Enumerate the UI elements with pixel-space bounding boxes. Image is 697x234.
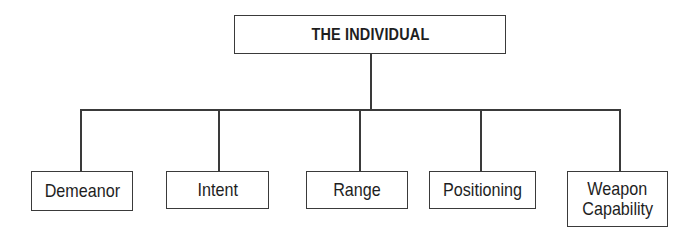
- node-positioning: Positioning: [429, 171, 536, 209]
- node-label-line2: Capability: [582, 199, 653, 219]
- root-node-label: THE INDIVIDUAL: [311, 25, 429, 45]
- root-node-the-individual: THE INDIVIDUAL: [234, 15, 506, 54]
- connector-intent: [218, 109, 220, 171]
- connector-demeanor: [80, 109, 82, 171]
- root-connector-line: [370, 53, 372, 110]
- horizontal-bus-line: [80, 109, 620, 111]
- node-label: Positioning: [443, 180, 522, 200]
- connector-positioning: [480, 109, 482, 171]
- node-label-line1: Weapon: [588, 179, 648, 199]
- node-label: Intent: [197, 180, 237, 200]
- connector-range: [359, 109, 361, 171]
- connector-weapon-capability: [619, 109, 621, 171]
- node-intent: Intent: [166, 171, 269, 209]
- node-demeanor: Demeanor: [31, 171, 133, 211]
- node-range: Range: [306, 171, 408, 209]
- node-label: Range: [333, 180, 381, 200]
- node-weapon-capability: Weapon Capability: [567, 171, 668, 227]
- node-label: Demeanor: [44, 181, 119, 201]
